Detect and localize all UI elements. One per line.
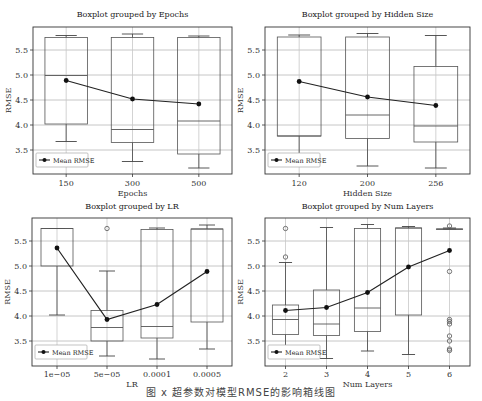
y-tick-label: 5.0 — [247, 262, 260, 271]
mean-point — [447, 248, 452, 253]
y-tick-label: 4.5 — [15, 96, 28, 105]
mean-point — [64, 78, 69, 83]
x-tick-label: 4 — [365, 370, 370, 379]
x-axis-label: Epochs — [118, 189, 148, 198]
subplot-lr: Boxplot grouped by LR3.54.04.55.05.5RMSE… — [3, 202, 232, 389]
legend: Mean RMSE — [268, 345, 327, 359]
figure-caption: 图 x 超参数对模型RMSE的影响箱线图 — [0, 384, 482, 399]
y-tick-label: 4.0 — [14, 312, 27, 321]
y-axis-label: RMSE — [4, 88, 13, 114]
subplot-num-layers: Boxplot grouped by Num Layers3.54.04.55.… — [236, 202, 470, 389]
y-axis-label: RMSE — [3, 279, 12, 305]
x-tick-label: 300 — [125, 179, 140, 188]
x-tick-label: 120 — [292, 179, 307, 188]
mean-point — [365, 290, 370, 295]
subplot-title: Boxplot grouped by Hidden Size — [302, 10, 434, 19]
mean-rmse-line — [57, 248, 207, 320]
mean-point — [324, 305, 329, 310]
legend-label: Mean RMSE — [285, 349, 327, 357]
subplot-title: Boxplot grouped by LR — [85, 202, 179, 211]
mean-point — [105, 317, 110, 322]
y-tick-label: 3.5 — [247, 337, 260, 346]
legend-marker-icon — [275, 350, 279, 354]
y-tick-label: 5.5 — [14, 237, 27, 246]
x-tick-label: 2 — [283, 370, 288, 379]
x-tick-label: 1e−05 — [44, 370, 71, 379]
subplot-epochs: Boxplot grouped by Epochs3.54.04.55.05.5… — [4, 10, 232, 198]
y-tick-label: 4.0 — [15, 121, 28, 130]
mean-point — [283, 308, 288, 313]
legend-marker-icon — [43, 158, 47, 162]
x-tick-label: 256 — [428, 179, 443, 188]
x-tick-label: 3 — [324, 370, 329, 379]
mean-point — [433, 103, 438, 108]
y-tick-label: 5.5 — [247, 237, 260, 246]
mean-point — [205, 269, 210, 274]
legend: Mean RMSE — [268, 153, 327, 167]
y-axis-label: RMSE — [236, 279, 245, 305]
y-tick-label: 4.0 — [247, 121, 260, 130]
y-tick-label: 3.5 — [247, 146, 260, 155]
y-tick-label: 4.5 — [14, 287, 27, 296]
x-tick-label: 500 — [191, 179, 206, 188]
legend: Mean RMSE — [35, 345, 94, 359]
mean-point — [55, 246, 60, 251]
figure-canvas: Boxplot grouped by Epochs3.54.04.55.05.5… — [0, 0, 482, 401]
x-tick-label: 200 — [360, 179, 375, 188]
mean-point — [297, 79, 302, 84]
mean-point — [365, 95, 370, 100]
legend-label: Mean RMSE — [52, 349, 94, 357]
subplot-title: Boxplot grouped by Num Layers — [302, 202, 434, 211]
y-tick-label: 3.5 — [14, 337, 27, 346]
y-tick-label: 4.5 — [247, 96, 260, 105]
y-tick-label: 5.5 — [247, 46, 260, 55]
y-tick-label: 3.5 — [15, 146, 28, 155]
axes-frame — [32, 218, 232, 366]
legend: Mean RMSE — [36, 153, 95, 167]
subplot-title: Boxplot grouped by Epochs — [77, 10, 189, 19]
x-tick-label: 150 — [59, 179, 74, 188]
x-axis-label: Hidden Size — [343, 189, 392, 198]
y-tick-label: 5.0 — [14, 262, 27, 271]
y-tick-label: 5.0 — [15, 71, 28, 80]
y-tick-label: 5.5 — [15, 46, 28, 55]
y-axis-label: RMSE — [236, 88, 245, 114]
legend-marker-icon — [42, 350, 46, 354]
mean-point — [155, 302, 160, 307]
legend-marker-icon — [275, 158, 279, 162]
x-tick-label: 5e−05 — [94, 370, 121, 379]
mean-point — [196, 102, 201, 107]
legend-label: Mean RMSE — [53, 157, 95, 165]
x-tick-label: 5 — [406, 370, 411, 379]
mean-point — [406, 265, 411, 270]
x-tick-label: 0.0005 — [193, 370, 221, 379]
x-tick-label: 6 — [447, 370, 452, 379]
x-tick-label: 0.0001 — [143, 370, 171, 379]
y-tick-label: 4.0 — [247, 312, 260, 321]
subplot-hidden-size: Boxplot grouped by Hidden Size3.54.04.55… — [236, 10, 470, 198]
legend-label: Mean RMSE — [285, 157, 327, 165]
y-tick-label: 5.0 — [247, 71, 260, 80]
mean-point — [130, 97, 135, 102]
y-tick-label: 4.5 — [247, 287, 260, 296]
